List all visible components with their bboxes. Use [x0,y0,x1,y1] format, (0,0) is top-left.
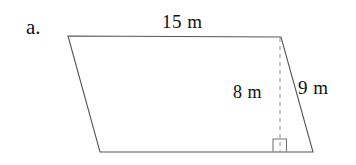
figure-item-label: a. [26,17,41,38]
slant-side-length-label: 9 m [298,78,329,97]
height-length-label: 8 m [233,83,262,101]
geometry-figure: a. 15 m 8 m 9 m [0,0,356,165]
base-length-label: 15 m [162,12,203,31]
parallelogram-shape [68,36,313,152]
